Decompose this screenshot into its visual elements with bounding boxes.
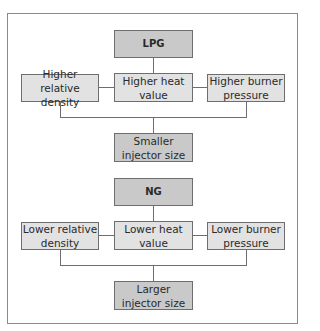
box-text: injector size <box>122 148 185 162</box>
ng-label: NG <box>145 185 162 199</box>
lpg-label: LPG <box>143 37 165 51</box>
box-text: Larger <box>122 282 185 296</box>
box-text: Higher relative <box>22 67 98 95</box>
connector <box>246 102 247 117</box>
box-text: value <box>124 236 182 250</box>
lpg-heat-value-box: Higher heatvalue <box>114 73 193 102</box>
connector <box>193 87 207 88</box>
lpg-result-box: Smallerinjector size <box>114 133 193 162</box>
connector <box>60 250 61 265</box>
connector <box>153 117 154 133</box>
connector <box>153 206 154 222</box>
box-text: Smaller <box>122 134 185 148</box>
box-text: value <box>123 88 185 102</box>
box-text: density <box>23 236 97 250</box>
box-text: Higher heat <box>123 74 185 88</box>
box-text: pressure <box>209 88 282 102</box>
connector <box>153 58 154 73</box>
box-text: pressure <box>211 236 281 250</box>
connector <box>153 265 154 281</box>
ng-result-box: Largerinjector size <box>114 281 193 310</box>
connector <box>246 250 247 265</box>
ng-heat-value-box: Lower heatvalue <box>114 221 193 250</box>
box-text: Higher burner <box>209 74 282 88</box>
lpg-density-box: Higher relativedensity <box>21 74 99 102</box>
box-text: Lower burner <box>211 222 281 236</box>
lpg-source-box: LPG <box>114 30 193 58</box>
connector <box>99 235 114 236</box>
ng-pressure-box: Lower burnerpressure <box>207 222 285 250</box>
lpg-pressure-box: Higher burnerpressure <box>207 74 285 102</box>
connector <box>99 87 114 88</box>
box-text: Lower heat <box>124 222 182 236</box>
connector <box>193 235 207 236</box>
box-text: Lower relative <box>23 222 97 236</box>
box-text: injector size <box>122 296 185 310</box>
connector <box>60 102 61 117</box>
ng-density-box: Lower relativedensity <box>21 222 99 250</box>
ng-source-box: NG <box>114 178 193 206</box>
